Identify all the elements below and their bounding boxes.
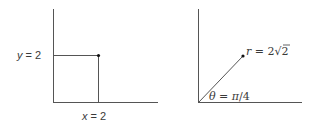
coordinate-diagrams: y = 2 x = 2 r = 2√2 θ = π/4 [0,0,316,128]
diagram-canvas: y = 2 x = 2 r = 2√2 θ = π/4 [0,0,316,128]
r-equals-label: r = 2√2 [246,45,289,58]
right-point [241,54,244,57]
left-point [97,54,100,57]
rectangular-diagram: y = 2 x = 2 [16,9,158,122]
x-equals-label: x = 2 [81,110,106,122]
y-equals-label: y = 2 [16,49,41,61]
polar-diagram: r = 2√2 θ = π/4 [198,9,302,103]
theta-equals-label: θ = π/4 [209,90,250,103]
